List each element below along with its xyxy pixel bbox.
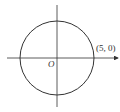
origin-label: O xyxy=(48,60,55,69)
point-label: (5, 0) xyxy=(96,44,116,53)
circle-diagram xyxy=(0,0,120,112)
